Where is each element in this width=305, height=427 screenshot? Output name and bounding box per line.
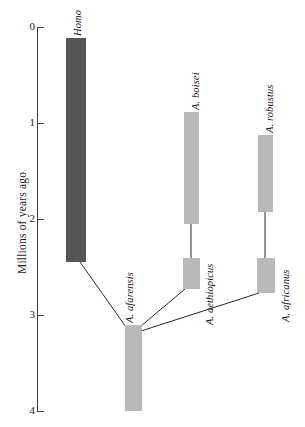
taxon-label-a-boisei: A. boisei — [190, 72, 201, 110]
taxon-label-a-africanus: A. africanus — [280, 269, 291, 322]
taxon-label-a-aethiopicus: A. aethiopicus — [204, 264, 215, 325]
taxon-bar-a-afarensis — [125, 325, 142, 411]
phylogeny-figure: 0 1 2 3 4 Millions of years ago Homo A. … — [0, 0, 305, 427]
taxon-bar-a-boisei — [184, 112, 199, 224]
branch-afarensis-to-homo — [80, 262, 126, 327]
taxon-bar-homo — [66, 38, 86, 262]
taxon-label-homo: Homo — [72, 10, 83, 36]
taxon-label-a-robustus: A. robustus — [264, 84, 275, 133]
branch-afarensis-to-africanus — [141, 293, 259, 331]
branch-afarensis-to-aethiopicus — [141, 289, 185, 326]
branch-lines — [0, 0, 305, 427]
taxon-bar-a-robustus — [258, 135, 273, 212]
taxon-bar-a-africanus — [257, 258, 275, 293]
taxon-label-a-afarensis: A. afarensis — [124, 272, 135, 323]
taxon-bar-a-aethiopicus — [183, 258, 200, 289]
